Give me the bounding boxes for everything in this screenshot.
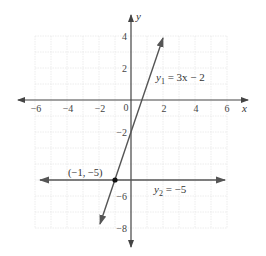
intersection-label: (−1, −5)	[68, 167, 103, 179]
y-axis-label: y	[135, 10, 141, 22]
intersection-point	[112, 177, 117, 182]
svg-text:−4: −4	[63, 103, 74, 114]
y1-label: y1 = 3x − 2	[155, 71, 205, 86]
svg-text:4: 4	[122, 31, 127, 42]
svg-text:6: 6	[225, 103, 230, 114]
svg-text:2: 2	[162, 103, 167, 114]
svg-text:−6: −6	[116, 191, 127, 202]
svg-text:2: 2	[122, 63, 127, 74]
x-tick-labels: −6 −4 −2 0 2 4 6	[31, 102, 230, 114]
svg-text:−6: −6	[31, 103, 42, 114]
svg-text:−8: −8	[116, 223, 127, 234]
svg-text:4: 4	[194, 103, 199, 114]
graph: x y −6 −4 −2 0 2 4 6 4 2 −2 −6 −8 (−1, −…	[0, 0, 266, 256]
svg-text:−2: −2	[95, 103, 106, 114]
y-tick-labels: 4 2 −2 −6 −8	[116, 31, 127, 234]
y2-label: y2 = −5	[153, 183, 187, 198]
x-axis-label: x	[241, 102, 247, 114]
svg-text:0: 0	[124, 102, 129, 113]
svg-text:−2: −2	[116, 127, 127, 138]
